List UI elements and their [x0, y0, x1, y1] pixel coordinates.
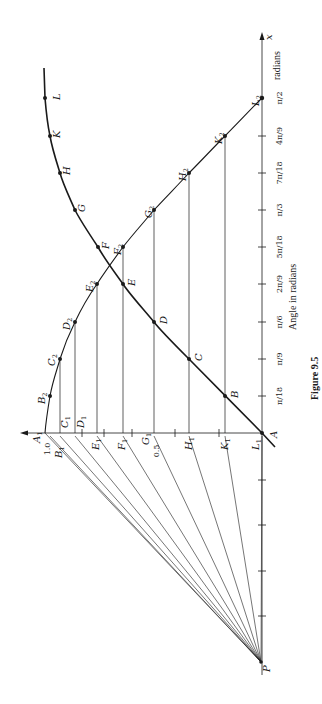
cosine-point-labels: B2 C2 D2 E2 F2 G2 H2 K2 L2 — [36, 95, 263, 405]
figure-9-5-diagram: π/18 π/9 π/6 2π/9 5π/18 π/3 7π/18 4π/9 π… — [0, 0, 322, 704]
svg-text:A: A — [268, 431, 279, 439]
svg-text:G1: G1 — [140, 433, 153, 445]
svg-text:2π/9: 2π/9 — [275, 275, 284, 293]
svg-text:π/2: π/2 — [275, 91, 284, 104]
svg-text:π/18: π/18 — [275, 387, 284, 405]
svg-text:π/9: π/9 — [275, 352, 284, 365]
svg-text:F1: F1 — [116, 439, 129, 451]
svg-text:C1: C1 — [59, 416, 72, 428]
svg-text:H: H — [61, 166, 72, 176]
svg-text:L2: L2 — [250, 95, 263, 107]
svg-text:C: C — [193, 353, 204, 361]
svg-text:E1: E1 — [90, 439, 103, 451]
value-axis — [20, 429, 262, 437]
svg-text:E: E — [126, 278, 137, 287]
svg-text:H2: H2 — [177, 168, 190, 182]
sine-point-labels: A B C D E F G H K L — [51, 93, 279, 439]
svg-text:π/3: π/3 — [275, 203, 284, 216]
pole-label: P — [261, 665, 272, 673]
svg-text:A1: A1 — [31, 432, 44, 444]
svg-text:L: L — [51, 93, 62, 101]
pole-point — [259, 660, 263, 664]
sine-curve — [43, 68, 275, 447]
value-label-half: 0.5 — [152, 445, 161, 458]
svg-text:B1: B1 — [53, 447, 66, 460]
angle-tick-labels: π/18 π/9 π/6 2π/9 5π/18 π/3 7π/18 4π/9 π… — [275, 91, 284, 405]
svg-text:K: K — [51, 130, 62, 139]
svg-text:D: D — [158, 316, 169, 325]
figure-caption: Figure 9.5 — [309, 357, 320, 400]
svg-text:F: F — [100, 241, 111, 250]
angle-axis — [258, 32, 266, 675]
svg-text:C2: C2 — [46, 354, 59, 366]
svg-text:5π/18: 5π/18 — [275, 235, 284, 258]
angle-axis-title: Angle in radians — [287, 264, 298, 330]
svg-text:K1: K1 — [219, 438, 232, 451]
svg-text:D1: D1 — [75, 416, 88, 429]
rays-from-pole — [45, 433, 262, 662]
svg-text:H1: H1 — [183, 437, 196, 451]
svg-text:L1: L1 — [250, 439, 263, 451]
angle-axis-unit: radians — [271, 51, 282, 80]
value-label-1: 1.0 — [43, 443, 52, 456]
cosine-curve — [45, 96, 264, 433]
svg-text:B: B — [229, 391, 240, 399]
svg-text:B2: B2 — [36, 393, 49, 406]
axis-arrow-icon — [20, 431, 28, 436]
x-axis-end-label: x — [263, 34, 274, 40]
projection-lines — [60, 136, 225, 433]
svg-text:4π/9: 4π/9 — [275, 127, 284, 145]
svg-text:G: G — [76, 204, 87, 212]
svg-text:K2: K2 — [213, 132, 226, 145]
svg-text:π/6: π/6 — [275, 315, 284, 328]
svg-text:7π/18: 7π/18 — [275, 161, 284, 184]
